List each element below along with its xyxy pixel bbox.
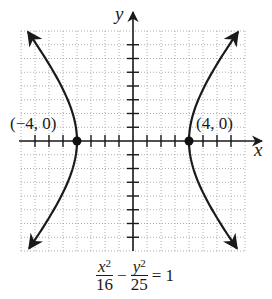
vertex-point: [185, 137, 194, 146]
y-axis-label: y: [115, 3, 123, 25]
denominator-25: 25: [131, 276, 148, 293]
fraction-y: y2 25: [131, 258, 148, 293]
numerator-x: x: [98, 257, 106, 276]
exponent: 2: [140, 257, 146, 269]
equals-one: = 1: [152, 266, 174, 286]
vertex-label-right: (4, 0): [196, 114, 233, 134]
vertex-label-left: (−4, 0): [10, 114, 56, 134]
equation: x2 16 − y2 25 = 1: [96, 258, 178, 293]
minus-operator: −: [117, 266, 127, 286]
vertex-point: [73, 137, 82, 146]
hyperbola-plot: [0, 0, 272, 299]
x-axis-label: x: [254, 139, 262, 161]
fraction-x: x2 16: [96, 258, 113, 293]
denominator-16: 16: [96, 276, 113, 293]
exponent: 2: [106, 257, 112, 269]
